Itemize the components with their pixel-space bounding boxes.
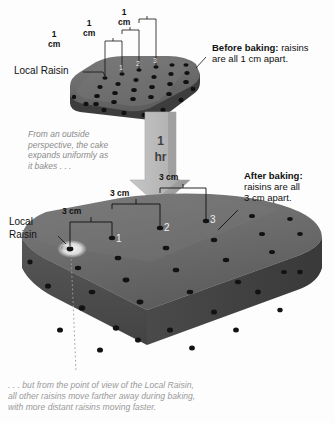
before-measure-1-value: 1 (52, 29, 57, 39)
local-raisin-bottom-line2: Raisin (9, 229, 37, 240)
outside-note-line4: it bakes . . . (28, 161, 71, 171)
outside-note-line1: From an outside (28, 129, 89, 139)
before-baking-line2: are all 1 cm apart. (212, 53, 288, 64)
after-measure-2: 3 cm (110, 189, 129, 199)
before-measure-3-value: 1 (122, 7, 127, 17)
before-measure-2-unit: cm (83, 28, 95, 38)
before-baking-leader (196, 57, 206, 68)
before-measure-3: 1 cm (118, 8, 130, 27)
before-raisin-number-2: 2 (136, 60, 140, 67)
before-measure-2: 1 cm (83, 19, 95, 38)
local-raisin-label-top: Local Raisin (14, 65, 68, 76)
after-baking-title: After baking: (244, 170, 303, 181)
after-measure-1: 3 cm (62, 207, 81, 217)
before-baking-title-rest: raisins (279, 42, 309, 53)
arrow-duration-line1: 1 (145, 134, 176, 148)
local-raisin-highlight (57, 240, 87, 258)
local-raisin-label-bottom: Local Raisin (9, 215, 37, 241)
after-baking-line2: raisins are all (244, 181, 300, 192)
bottom-note-line3: with more distant raisins moving faster. (8, 402, 156, 412)
local-raisin-bottom-line1: Local (9, 216, 33, 227)
bottom-note-line2: all other raisins move farther away duri… (8, 391, 195, 401)
before-measure-3-unit: cm (118, 17, 130, 27)
before-baking-title: Before baking: (212, 42, 279, 53)
local-raisin-perspective-note: . . . but from the point of view of the … (8, 380, 195, 413)
before-baking-callout: Before baking: raisins are all 1 cm apar… (212, 42, 309, 64)
outside-note-line3: expands uniformly as (28, 150, 108, 160)
before-raisin-number-3: 3 (153, 57, 157, 64)
after-baking-callout: After baking: raisins are all 3 cm apart… (244, 170, 303, 203)
after-raisin-number-2: 2 (164, 222, 170, 233)
outside-note-line2: perspective, the cake (28, 140, 108, 150)
before-measure-1: 1 cm (48, 30, 60, 49)
arrow-duration-line2: hr (145, 150, 176, 164)
after-baking-line3: 3 cm apart. (244, 192, 292, 203)
outside-perspective-note: From an outside perspective, the cake ex… (28, 129, 108, 171)
after-raisin-number-3: 3 (210, 214, 216, 225)
after-measure-3: 3 cm (159, 173, 178, 183)
bottom-note-line1: . . . but from the point of view of the … (8, 380, 194, 390)
before-raisin-number-1: 1 (119, 64, 123, 71)
figure-canvas: 1 cm 1 cm 1 cm #u1{position:absolute;} 1… (0, 0, 335, 423)
before-measure-1-unit: cm (48, 39, 60, 49)
after-raisin-number-1: 1 (116, 233, 122, 244)
before-measure-2-value: 1 (87, 18, 92, 28)
small-cake (70, 56, 200, 120)
